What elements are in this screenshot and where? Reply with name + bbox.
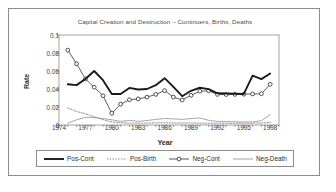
series-marker-neg-cont — [136, 97, 140, 101]
series-marker-neg-cont — [110, 111, 114, 115]
legend-item[interactable]: Neg-Cont — [168, 155, 219, 163]
legend-swatch-neg-cont — [168, 155, 190, 163]
plot-frame — [59, 35, 279, 125]
series-marker-neg-cont — [154, 93, 158, 97]
legend-swatch-pos-birth — [106, 155, 128, 163]
legend-item[interactable]: Pos-Cont — [43, 155, 94, 163]
series-marker-neg-cont — [251, 92, 255, 96]
legend-label: Pos-Birth — [130, 155, 156, 162]
series-marker-neg-cont — [101, 94, 105, 98]
legend-item[interactable]: Pos-Birth — [106, 155, 156, 163]
series-marker-neg-cont — [66, 48, 70, 52]
series-marker-neg-cont — [128, 98, 132, 102]
series-marker-neg-cont — [172, 95, 176, 99]
series-marker-neg-cont — [75, 62, 79, 66]
figure-border: Capital Creation and Destruction – Conti… — [8, 8, 320, 176]
series-line-pos-birth — [68, 108, 270, 123]
series-marker-neg-cont — [145, 95, 149, 99]
legend-label: Pos-Cont — [67, 155, 94, 162]
x-axis-label: Year — [9, 138, 321, 147]
series-marker-neg-cont — [198, 89, 202, 93]
series-marker-neg-cont — [189, 93, 193, 97]
series-line-neg-death — [68, 115, 270, 124]
figure-container: Capital Creation and Destruction – Conti… — [0, 0, 336, 192]
series-marker-neg-cont — [268, 82, 272, 86]
series-marker-neg-cont — [119, 102, 123, 106]
chart-legend: Pos-ContPos-BirthNeg-ContNeg-Death — [36, 150, 294, 167]
series-line-pos-cont — [68, 71, 270, 96]
series-marker-neg-cont — [260, 92, 264, 96]
series-marker-neg-cont — [180, 98, 184, 102]
series-marker-neg-cont — [163, 89, 167, 93]
series-marker-neg-cont — [92, 85, 96, 89]
legend-label: Neg-Death — [256, 155, 287, 162]
legend-swatch-neg-death — [232, 155, 254, 163]
legend-swatch-pos-cont — [43, 155, 65, 163]
legend-item[interactable]: Neg-Death — [232, 155, 287, 163]
legend-label: Neg-Cont — [192, 155, 219, 162]
